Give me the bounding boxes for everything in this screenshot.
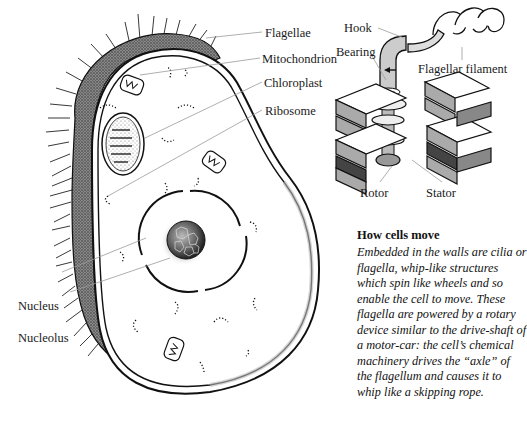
- label-ribosome: Ribosome: [265, 105, 316, 118]
- label-flagellar-filament: Flagellar filament: [418, 63, 507, 76]
- label-bearing: Bearing: [336, 46, 376, 59]
- label-chloroplast: Chloroplast: [264, 77, 322, 90]
- label-rotor: Rotor: [360, 187, 388, 200]
- label-nucleolus: Nucleolus: [18, 332, 69, 345]
- label-stator: Stator: [426, 187, 456, 200]
- caption: How cells move Embedded in the walls are…: [357, 228, 527, 400]
- label-nucleus: Nucleus: [18, 300, 59, 313]
- caption-body: Embedded in the walls are cilia or flage…: [357, 245, 527, 400]
- label-flagellae: Flagellae: [265, 27, 311, 40]
- label-hook: Hook: [344, 22, 372, 35]
- label-mitochondrion: Mitochondrion: [262, 53, 337, 66]
- caption-title: How cells move: [357, 228, 527, 243]
- chloroplast: [102, 113, 144, 175]
